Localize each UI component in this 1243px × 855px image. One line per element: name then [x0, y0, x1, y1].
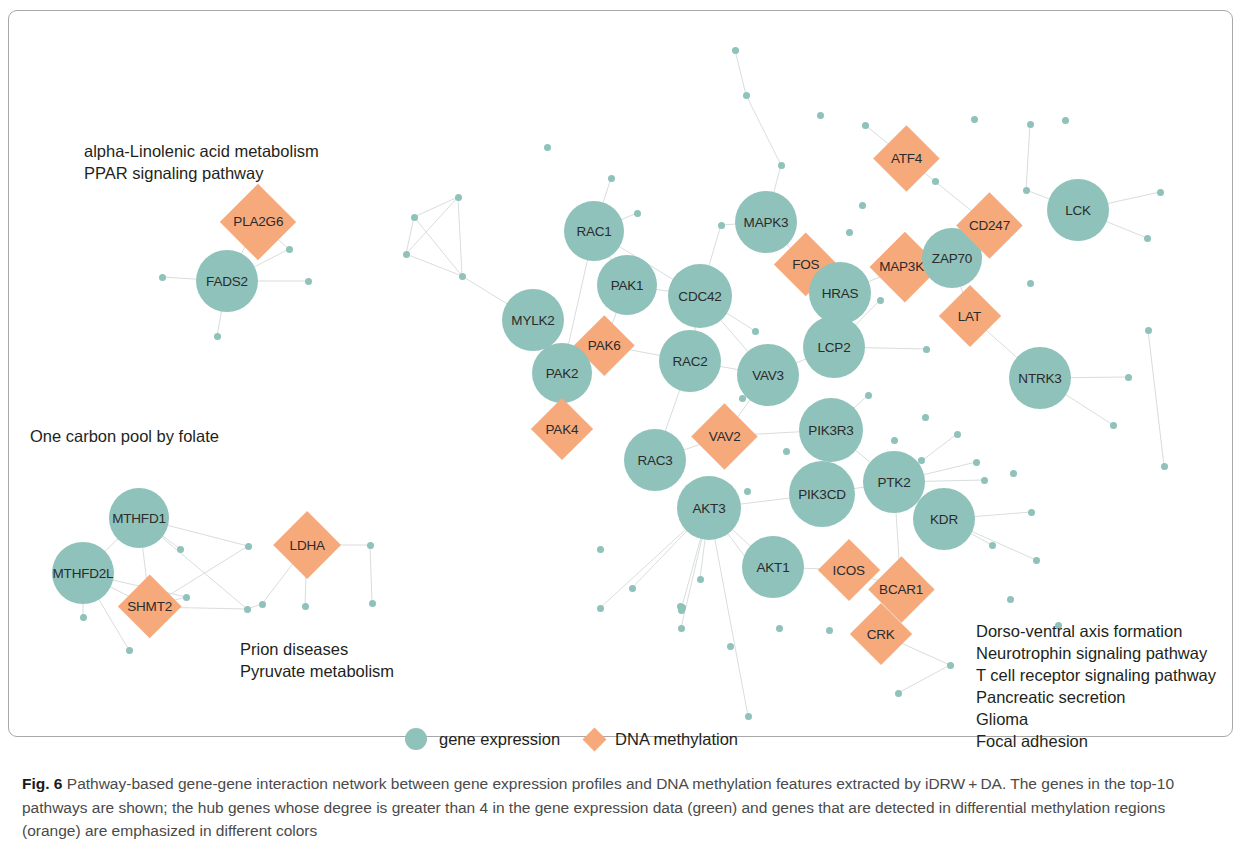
network-small-node[interactable]: [1027, 121, 1034, 128]
network-small-node[interactable]: [678, 625, 685, 632]
network-small-node[interactable]: [634, 210, 641, 217]
network-small-node[interactable]: [1110, 422, 1117, 429]
network-small-node[interactable]: [411, 214, 418, 221]
network-small-node[interactable]: [286, 246, 293, 253]
network-small-node[interactable]: [1062, 117, 1069, 124]
network-small-node[interactable]: [973, 459, 980, 466]
network-node-lcp2[interactable]: LCP2: [803, 316, 865, 378]
network-small-node[interactable]: [846, 229, 853, 236]
pathway-name: T cell receptor signaling pathway: [976, 664, 1216, 686]
network-small-node[interactable]: [608, 175, 615, 182]
network-small-node[interactable]: [678, 604, 685, 611]
network-small-node[interactable]: [776, 625, 783, 632]
network-small-node[interactable]: [1023, 187, 1030, 194]
network-small-node[interactable]: [1125, 374, 1132, 381]
network-small-node[interactable]: [1157, 189, 1164, 196]
network-small-node[interactable]: [718, 222, 725, 229]
network-small-node[interactable]: [727, 643, 734, 650]
network-small-node[interactable]: [305, 278, 312, 285]
network-small-node[interactable]: [971, 116, 978, 123]
network-small-node[interactable]: [245, 543, 252, 550]
network-node-kdr[interactable]: KDR: [913, 488, 975, 550]
network-small-node[interactable]: [597, 546, 604, 553]
pathway-name: Pancreatic secretion: [976, 686, 1216, 708]
network-small-node[interactable]: [459, 273, 466, 280]
network-small-node[interactable]: [877, 297, 884, 304]
network-node-mapk3[interactable]: MAPK3: [735, 191, 797, 253]
network-small-node[interactable]: [544, 144, 551, 151]
network-small-node[interactable]: [932, 178, 939, 185]
network-small-node[interactable]: [778, 162, 785, 169]
network-node-pak1[interactable]: PAK1: [597, 255, 657, 315]
node-label: CRK: [867, 626, 895, 641]
network-node-vav3[interactable]: VAV3: [737, 344, 799, 406]
network-small-node[interactable]: [981, 477, 988, 484]
network-small-node[interactable]: [455, 194, 462, 201]
network-small-node[interactable]: [1144, 235, 1151, 242]
pathway-name: Glioma: [976, 708, 1216, 730]
network-small-node[interactable]: [895, 690, 902, 697]
network-node-ntrk3[interactable]: NTRK3: [1009, 347, 1071, 409]
network-small-node[interactable]: [244, 606, 251, 613]
network-small-node[interactable]: [862, 122, 869, 129]
network-small-node[interactable]: [597, 605, 604, 612]
network-node-rac2[interactable]: RAC2: [659, 330, 721, 392]
network-small-node[interactable]: [947, 662, 954, 669]
node-label: PAK6: [588, 337, 621, 352]
legend-gene-expression-label: gene expression: [439, 730, 560, 749]
network-small-node[interactable]: [369, 600, 376, 607]
network-small-node[interactable]: [739, 395, 746, 402]
network-small-node[interactable]: [752, 328, 759, 335]
network-small-node[interactable]: [177, 546, 184, 553]
network-small-node[interactable]: [1161, 463, 1168, 470]
network-small-node[interactable]: [891, 437, 898, 444]
network-small-node[interactable]: [259, 601, 266, 608]
network-node-mthfd2l[interactable]: MTHFD2L: [52, 542, 114, 604]
network-small-node[interactable]: [159, 274, 166, 281]
network-small-node[interactable]: [214, 333, 221, 340]
network-node-cdc42[interactable]: CDC42: [668, 264, 732, 328]
network-small-node[interactable]: [859, 202, 866, 209]
network-node-rac1[interactable]: RAC1: [564, 201, 624, 261]
network-small-node[interactable]: [989, 542, 996, 549]
network-small-node[interactable]: [954, 431, 961, 438]
network-small-node[interactable]: [1028, 509, 1035, 516]
network-node-pik3cd[interactable]: PIK3CD: [789, 461, 855, 527]
network-small-node[interactable]: [1033, 557, 1040, 564]
network-small-node[interactable]: [743, 92, 750, 99]
network-small-node[interactable]: [826, 627, 833, 634]
network-small-node[interactable]: [367, 542, 374, 549]
network-node-mylk2[interactable]: MYLK2: [502, 289, 564, 351]
network-small-node[interactable]: [783, 448, 790, 455]
network-node-rac3[interactable]: RAC3: [624, 429, 686, 491]
network-small-node[interactable]: [923, 346, 930, 353]
network-small-node[interactable]: [732, 47, 739, 54]
network-small-node[interactable]: [126, 647, 133, 654]
network-small-node[interactable]: [1027, 280, 1034, 287]
network-small-node[interactable]: [1145, 327, 1152, 334]
network-node-pik3r3[interactable]: PIK3R3: [799, 398, 863, 462]
network-small-node[interactable]: [1007, 596, 1014, 603]
network-small-node[interactable]: [922, 414, 929, 421]
network-small-node[interactable]: [745, 713, 752, 720]
network-small-node[interactable]: [1010, 470, 1017, 477]
node-label: MAPK3: [744, 215, 789, 230]
network-node-lck[interactable]: LCK: [1047, 179, 1109, 241]
network-node-pak2[interactable]: PAK2: [532, 343, 592, 403]
network-small-node[interactable]: [918, 457, 925, 464]
network-node-akt3[interactable]: AKT3: [677, 476, 741, 540]
network-node-mthfd1[interactable]: MTHFD1: [109, 488, 169, 548]
network-node-hras[interactable]: HRAS: [809, 262, 871, 324]
network-small-node[interactable]: [817, 112, 824, 119]
network-small-node[interactable]: [697, 576, 704, 583]
network-small-node[interactable]: [817, 406, 824, 413]
network-small-node[interactable]: [629, 585, 636, 592]
network-small-node[interactable]: [865, 392, 872, 399]
network-small-node[interactable]: [403, 251, 410, 258]
network-small-node[interactable]: [302, 603, 309, 610]
network-small-node[interactable]: [183, 594, 190, 601]
network-small-node[interactable]: [748, 562, 755, 569]
network-small-node[interactable]: [744, 488, 751, 495]
network-node-fads2[interactable]: FADS2: [196, 250, 258, 312]
network-small-node[interactable]: [80, 614, 87, 621]
